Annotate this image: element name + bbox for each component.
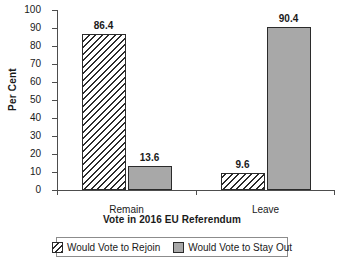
y-tick-label: 100 [7,5,41,15]
y-tick-label: 10 [7,167,41,177]
y-tick-mark [52,118,57,119]
solid-swatch-icon [173,242,184,253]
legend-item-rejoin: Would Vote to Rejoin [52,242,160,253]
bar-value-label: 9.6 [213,159,273,170]
y-tick-label: 30 [7,131,41,141]
y-tick-mark [52,172,57,173]
bar-leave-series-2 [267,27,311,190]
y-tick-mark [52,28,57,29]
bar-chart: Per Cent 0102030405060708090100 86.413.6… [0,0,344,265]
y-tick-mark [52,46,57,47]
y-tick-mark [52,10,57,11]
x-tick-mark [334,190,335,195]
y-tick-label: 70 [7,59,41,69]
y-tick-label: 80 [7,41,41,51]
y-tick-mark [52,100,57,101]
y-tick-label: 20 [7,149,41,159]
x-tick-mark [57,190,58,195]
bar-value-label: 86.4 [74,20,134,31]
bar-leave-series-1 [221,173,265,190]
y-axis-line [57,10,58,190]
y-tick-mark [52,154,57,155]
x-axis-title: Vote in 2016 EU Referendum [0,214,344,225]
y-tick-label: 60 [7,77,41,87]
plot-area: 0102030405060708090100 86.413.69.690.4 R… [57,10,335,190]
hatch-swatch-icon [52,242,63,253]
y-tick-label: 50 [7,95,41,105]
y-tick-label: 40 [7,113,41,123]
bar-value-label: 90.4 [259,13,319,24]
y-tick-label: 90 [7,23,41,33]
y-tick-mark [52,64,57,65]
bar-remain-series-2 [128,166,172,190]
legend-label-stay-out: Would Vote to Stay Out [188,242,292,253]
y-tick-mark [52,136,57,137]
chart-legend: Would Vote to Rejoin Would Vote to Stay … [56,237,288,257]
legend-label-rejoin: Would Vote to Rejoin [67,242,160,253]
x-tick-mark [196,190,197,195]
bar-value-label: 13.6 [120,152,180,163]
y-tick-mark [52,82,57,83]
y-tick-label: 0 [7,185,41,195]
legend-item-stay-out: Would Vote to Stay Out [173,242,292,253]
bar-remain-series-1 [82,34,126,190]
